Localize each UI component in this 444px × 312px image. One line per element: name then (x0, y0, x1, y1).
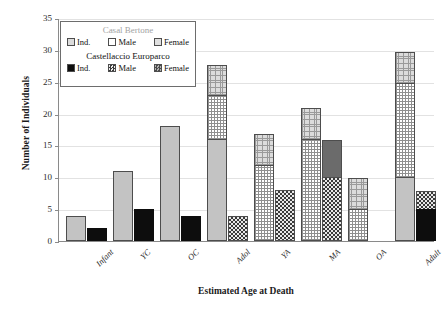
bar-segment-ind (87, 228, 107, 241)
legend-label: Ind. (77, 37, 90, 47)
bar-casal-bertone-yc (113, 172, 133, 241)
legend-title-casal-bertone: Casal Bertone (66, 25, 190, 36)
legend-label: Male (118, 63, 135, 73)
legend-label: Female (164, 63, 189, 73)
bar-casal-bertone-adol (207, 66, 227, 241)
bar-group (113, 172, 154, 241)
bar-segment-male (348, 209, 368, 241)
bar-segment-female (322, 140, 342, 178)
legend-label: Female (164, 37, 189, 47)
bar-casal-bertone-ya (254, 135, 274, 241)
legend-label: Ind. (77, 63, 90, 73)
y-tick-mark (55, 83, 59, 84)
legend-label: Male (118, 37, 135, 47)
y-tick-label: 25 (12, 77, 52, 87)
y-tick-label: 5 (12, 204, 52, 214)
bar-group (160, 127, 201, 241)
bar-castellaccio-europarco-ma (322, 141, 342, 241)
bar-segment-male (254, 165, 274, 241)
bar-casal-bertone-adult (395, 53, 415, 241)
legend-item-ce-female: Female (154, 63, 189, 73)
y-tick-mark (55, 19, 59, 20)
bar-segment-ind (181, 216, 201, 241)
legend-item-cb-ind: Ind. (67, 37, 90, 47)
bar-segment-male (207, 95, 227, 140)
y-tick-label: 15 (12, 140, 52, 150)
bar-segment-male (416, 191, 436, 210)
bar-castellaccio-europarco-adult (416, 192, 436, 241)
y-tick-mark (55, 178, 59, 179)
bar-group (207, 66, 248, 241)
x-tick-label: YC (138, 247, 152, 261)
bar-segment-ind (207, 139, 227, 241)
bar-segment-male (322, 177, 342, 241)
y-tick-mark (55, 115, 59, 116)
bar-castellaccio-europarco-yc (134, 210, 154, 241)
legend-row-casal-bertone: Ind. Male Female (66, 37, 190, 47)
y-tick-label: 10 (12, 172, 52, 182)
bar-group (66, 217, 107, 241)
bar-castellaccio-europarco-infant (87, 229, 107, 241)
x-tick-label: Adult (422, 247, 442, 267)
bar-segment-female (207, 65, 227, 97)
ce-female-swatch-icon (154, 64, 162, 72)
ce-ind-swatch-icon (67, 64, 75, 72)
bar-chart: Number of Individuals Estimated Age at D… (0, 0, 444, 312)
y-tick-label: 30 (12, 45, 52, 55)
y-tick-mark (55, 146, 59, 147)
legend-item-cb-female: Female (154, 37, 189, 47)
bar-castellaccio-europarco-adol (228, 217, 248, 241)
bar-casal-bertone-infant (66, 217, 86, 241)
legend-title-castellaccio-europarco: Castellaccio Europarco (66, 51, 190, 62)
bar-group (348, 179, 389, 241)
legend-row-castellaccio-europarco: Ind. Male Female (66, 63, 190, 73)
y-tick-mark (55, 51, 59, 52)
gridline (59, 19, 434, 20)
x-tick-label: Adol (234, 247, 252, 265)
bar-casal-bertone-oa (348, 179, 368, 241)
bar-segment-male (275, 190, 295, 241)
legend-item-cb-male: Male (108, 37, 135, 47)
cb-male-swatch-icon (108, 38, 116, 46)
legend-item-ce-ind: Ind. (67, 63, 90, 73)
y-tick-mark (55, 210, 59, 211)
x-axis-title: Estimated Age at Death (58, 286, 434, 296)
bar-segment-ind (416, 209, 436, 241)
x-tick-label: OC (185, 247, 200, 262)
bar-segment-ind (66, 216, 86, 241)
y-tick-mark (55, 242, 59, 243)
x-tick-label: OA (373, 247, 388, 262)
bar-segment-male (395, 83, 415, 179)
y-tick-label: 20 (12, 109, 52, 119)
bar-segment-male (228, 216, 248, 241)
bar-group (254, 135, 295, 241)
legend-item-ce-male: Male (108, 63, 135, 73)
bar-casal-bertone-oc (160, 127, 180, 241)
x-tick-label: YA (279, 247, 293, 261)
bar-castellaccio-europarco-oc (181, 217, 201, 241)
chart-legend: Casal Bertone Ind. Male Female Castellac… (60, 21, 196, 87)
bar-segment-ind (160, 126, 180, 241)
bar-casal-bertone-ma (301, 109, 321, 241)
bar-segment-female (348, 178, 368, 210)
bar-segment-ind (395, 177, 415, 241)
bar-segment-female (301, 108, 321, 140)
bar-group (395, 53, 436, 241)
bar-segment-female (395, 52, 415, 84)
x-tick-label: Infant (94, 247, 115, 268)
bar-segment-ind (134, 209, 154, 241)
y-tick-label: 0 (12, 236, 52, 246)
bar-group (301, 109, 342, 241)
ce-male-swatch-icon (108, 64, 116, 72)
cb-ind-swatch-icon (67, 38, 75, 46)
bar-segment-ind (113, 171, 133, 241)
x-tick-label: MA (327, 247, 343, 263)
y-tick-label: 35 (12, 13, 52, 23)
bar-segment-female (254, 134, 274, 166)
cb-female-swatch-icon (154, 38, 162, 46)
bar-castellaccio-europarco-ya (275, 191, 295, 241)
bar-segment-male (301, 139, 321, 241)
